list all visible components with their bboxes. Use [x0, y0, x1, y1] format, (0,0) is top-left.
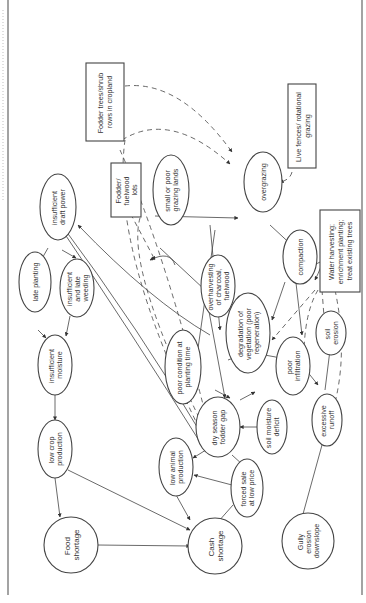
svg-text:poor condition at plan: poor condition at planting time: [175, 339, 192, 394]
edge: [296, 283, 302, 335]
node-late-planting: late planting: [19, 252, 51, 312]
svg-text:dry season fodder gap: dry season fodder gap: [210, 408, 227, 445]
edge: [66, 316, 70, 336]
edge: [194, 475, 232, 485]
edge: [240, 392, 255, 400]
node-compaction: compaction: [283, 230, 317, 284]
node-soil-moisture-deficit: soil moisture deficit: [257, 400, 287, 454]
edge: [97, 545, 190, 546]
edge: [325, 350, 330, 390]
dashed-edge: [138, 218, 210, 440]
node-low-crop-production: low crop production: [38, 420, 72, 478]
svg-text:insufficient moisture: insufficient moisture: [47, 347, 64, 383]
svg-text:forced sale at low pri: forced sale at low price: [239, 469, 256, 506]
intervention-live-fences: Live fences/ rotational grazing: [288, 84, 316, 168]
node-low-animal-production: low animal production: [159, 438, 193, 496]
node-dry-season-fodder-gap: dry season fodder gap: [196, 397, 240, 457]
intervention-water-harvesting: Water harvesting; enrichment planting; t…: [320, 210, 360, 292]
node-degradation: degradation of vegetation (poor regenera…: [226, 293, 270, 373]
edge: [62, 250, 76, 258]
node-insufficient-draft-power: insufficient draft power: [40, 174, 76, 240]
node-food-shortage: Food shortage: [44, 517, 98, 573]
node-insufficient-moisture: insufficient moisture: [38, 335, 72, 395]
node-insufficient-late-weeding: insufficient and late weeding: [60, 259, 94, 317]
svg-text:small or poor grazing: small or poor grazing lands: [163, 168, 180, 212]
node-poor-infiltration: poor infiltration: [276, 337, 310, 395]
svg-text:overgrazing: overgrazing: [259, 163, 268, 201]
svg-text:insufficient draft pow: insufficient draft power: [50, 188, 67, 225]
svg-text:late planting: late planting: [31, 263, 40, 302]
causal-diagram: Fodder trees/shrub rows in cropland Fodd…: [0, 0, 366, 603]
svg-text:low animal production: low animal production: [168, 449, 185, 485]
node-forced-sale: forced sale at low price: [231, 459, 263, 517]
node-soil-erosion: soil erosion: [316, 311, 346, 355]
dashed-edge: [272, 290, 315, 340]
svg-text:low crop production: low crop production: [47, 432, 64, 466]
svg-text:Water harvesting; enri: Water harvesting; enrichment planting; t…: [327, 218, 354, 285]
node-gully-erosion: Gully erosion downslope: [282, 513, 334, 569]
node-excessive-runoff: excessive runoff: [312, 394, 342, 446]
svg-text:compaction: compaction: [296, 239, 305, 276]
svg-text:Fodder trees/shrub row: Fodder trees/shrub rows in cropland: [96, 71, 114, 134]
edge: [38, 330, 46, 338]
intervention-fodder-fuelwood-lots: Fodder/ fuelwood lots: [111, 163, 141, 217]
svg-text:degradation of vegetat: degradation of vegetation (poor regenera…: [236, 306, 261, 360]
node-small-poor-grazing: small or poor grazing lands: [153, 155, 189, 225]
node-overgrazing: overgrazing: [244, 152, 282, 212]
node-cash-shortage: Cash shortage: [188, 518, 242, 574]
dashed-edge: [125, 86, 232, 152]
intervention-fodder-trees: Fodder trees/shrub rows in cropland: [86, 63, 124, 141]
node-poor-condition-planting: poor condition at planting time: [165, 330, 201, 404]
svg-text:insufficient and late: insufficient and late weeding: [65, 270, 90, 306]
edge: [272, 282, 285, 320]
edge: [55, 478, 60, 517]
node-overharvesting: overharvesting of charcoal, fuelwood: [201, 255, 235, 317]
